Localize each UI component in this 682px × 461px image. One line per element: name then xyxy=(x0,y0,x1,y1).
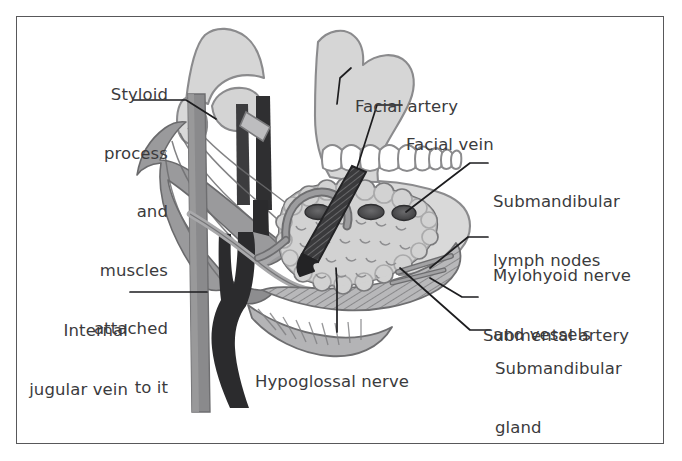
dark-vessel-branch xyxy=(211,232,255,408)
label-line: Submandibular xyxy=(493,192,673,212)
label-submandibular-gland: Submandibular gland xyxy=(495,320,670,461)
label-internal-jugular-vein: Internal jugular vein xyxy=(10,282,128,438)
dark-vessel-upper xyxy=(253,200,269,236)
label-line: jugular vein xyxy=(10,380,128,400)
label-line: muscles xyxy=(36,261,168,281)
label-line: Facial vein xyxy=(406,135,556,155)
label-hypoglossal-nerve: Hypoglossal nerve xyxy=(255,333,445,431)
label-line: Styloid xyxy=(36,85,168,105)
label-line: Submandibular xyxy=(495,359,670,379)
label-line: gland xyxy=(495,418,670,438)
label-line: process xyxy=(36,144,168,164)
label-line: Hypoglossal nerve xyxy=(255,372,445,392)
label-line: Internal xyxy=(10,321,128,341)
leader-hypoglossal xyxy=(336,268,337,332)
label-line: and xyxy=(36,202,168,222)
figure-root: Styloid process and muscles attached to … xyxy=(0,0,682,461)
deep-vein-upper xyxy=(256,96,272,210)
label-line: Mylohyoid nerve xyxy=(493,266,675,286)
